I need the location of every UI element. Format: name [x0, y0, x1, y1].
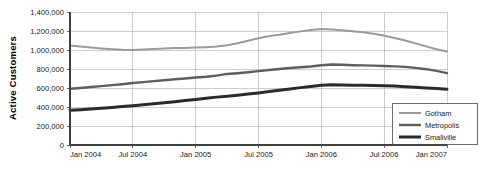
chart-legend: GothamMetropolisSmallville — [392, 103, 477, 144]
line-chart: 0200,000400,000600,000800,0001,000,0001,… — [0, 0, 481, 174]
legend-label-metropolis: Metropolis — [425, 121, 459, 130]
y-axis-title: Active Customers — [7, 36, 18, 120]
y-tick-label: 0 — [60, 141, 64, 150]
x-tick-label: Jul 2006 — [370, 150, 399, 159]
y-tick-label: 1,400,000 — [30, 8, 64, 17]
x-tick-label: Jan 2004 — [70, 150, 101, 159]
x-tick-label: Jul 2005 — [244, 150, 273, 159]
chart-canvas: 0200,000400,000600,000800,0001,000,0001,… — [0, 0, 481, 174]
x-axis-tick-labels: Jan 2004Jul 2004Jan 2005Jul 2005Jan 2006… — [70, 150, 447, 159]
legend-label-smallville: Smallville — [425, 133, 456, 142]
x-tick-label: Jan 2006 — [306, 150, 337, 159]
y-tick-label: 400,000 — [37, 103, 64, 112]
y-tick-label: 600,000 — [37, 84, 64, 93]
y-tick-label: 800,000 — [37, 65, 64, 74]
y-tick-label: 1,000,000 — [30, 46, 64, 55]
x-tick-label: Jan 2005 — [180, 150, 211, 159]
legend-items: GothamMetropolisSmallville — [399, 109, 459, 142]
legend-label-gotham: Gotham — [425, 109, 451, 118]
y-tick-label: 200,000 — [37, 122, 64, 131]
x-tick-label: Jan 2007 — [416, 150, 447, 159]
y-axis-tick-labels: 0200,000400,000600,000800,0001,000,0001,… — [30, 8, 64, 150]
y-tick-label: 1,200,000 — [30, 27, 64, 36]
x-tick-label: Jul 2004 — [118, 150, 147, 159]
